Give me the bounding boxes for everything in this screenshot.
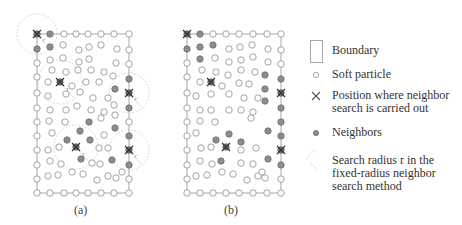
soft-particle [96, 79, 102, 85]
soft-particle [101, 109, 107, 115]
soft-particle [184, 162, 190, 168]
soft-particle [63, 91, 69, 97]
neighbor-particle [226, 131, 232, 137]
soft-particle [226, 46, 232, 52]
soft-particle [114, 46, 120, 52]
soft-particle [208, 144, 214, 150]
soft-particle [49, 130, 55, 136]
soft-particle [126, 119, 132, 125]
legend-item-boundary: Boundary [305, 40, 379, 62]
soft-particle [34, 176, 40, 182]
neighbor-particle [77, 128, 83, 134]
soft-particle [265, 59, 271, 65]
soft-particle [45, 79, 51, 85]
soft-particle [46, 118, 52, 124]
panel-b [183, 30, 285, 196]
soft-particle [250, 109, 256, 115]
soft-particle [113, 175, 119, 181]
soft-particle [63, 69, 69, 75]
soft-particle [184, 176, 190, 182]
soft-particle [83, 79, 89, 85]
soft-particle [197, 118, 203, 124]
soft-particle [126, 47, 132, 53]
soft-particle [98, 31, 104, 37]
soft-particle [250, 161, 256, 167]
legend-item-search-position: Position where neighbor search is carrie… [305, 84, 449, 115]
panel-a: rrrrr [17, 14, 149, 196]
soft-particle [253, 145, 259, 151]
soft-particle [219, 169, 225, 175]
soft-particle [69, 83, 75, 89]
soft-particle [126, 31, 132, 37]
neighbor-particle [197, 44, 203, 50]
soft-particle [236, 31, 242, 37]
soft-particle [184, 90, 190, 96]
soft-particle [230, 171, 236, 177]
neighbor-particle [213, 137, 219, 143]
soft-particle [98, 115, 104, 121]
soft-particle [34, 162, 40, 168]
neighbor-particle [126, 105, 132, 111]
soft-particle [197, 79, 203, 85]
soft-particle [252, 69, 258, 75]
soft-particle [61, 31, 67, 37]
neighbor-particle [278, 133, 284, 139]
soft-particle [198, 145, 204, 151]
soft-particle [219, 83, 225, 89]
soft-particle [126, 190, 132, 196]
neighbor-particle [278, 162, 284, 168]
neighbor-particle [278, 76, 284, 82]
soft-particle [264, 31, 270, 37]
soft-particle [45, 173, 51, 179]
panel-a-caption: (a) [74, 203, 87, 218]
soft-particle [34, 133, 40, 139]
neighbor-particle [87, 137, 93, 143]
neighbor-particle [109, 157, 115, 163]
soft-particle [184, 147, 190, 153]
soft-particle [238, 160, 244, 166]
soft-particle [278, 47, 284, 53]
soft-particle [204, 172, 210, 178]
neighbor-particle [34, 46, 40, 52]
neighbor-particle [278, 105, 284, 111]
soft-particle [193, 173, 199, 179]
soft-particle [111, 102, 117, 108]
soft-particle [184, 119, 190, 125]
soft-particle [88, 107, 94, 113]
neighbor-particle [112, 125, 118, 131]
legend-item-search-radius: Search radius r in the fixed-radius neig… [305, 146, 436, 193]
soft-particle [111, 31, 117, 37]
soft-particle [255, 95, 261, 101]
soft-particle [238, 147, 244, 153]
neighbor-particle [47, 31, 53, 37]
soft-particle [77, 89, 83, 95]
soft-particle [210, 190, 216, 196]
neighbor-particle [197, 31, 203, 37]
neighbor-particle [265, 128, 271, 134]
neighbor-particle [112, 86, 118, 92]
soft-particle [226, 59, 232, 65]
soft-particle [112, 112, 118, 118]
soft-particle [246, 81, 252, 87]
soft-particle [244, 177, 250, 183]
soft-particle [184, 74, 190, 80]
soft-particle [62, 119, 68, 125]
soft-particle [210, 31, 216, 37]
neighbor-particle [64, 137, 70, 143]
soft-particle [126, 61, 132, 67]
neighbor-particle [47, 44, 53, 50]
soft-particle [248, 115, 254, 121]
soft-particle [197, 190, 203, 196]
neighbor-particle [197, 56, 203, 62]
soft-particle [85, 190, 91, 196]
soft-particle [73, 31, 79, 37]
boundary-rect-icon [305, 40, 327, 62]
soft-particle [113, 60, 119, 66]
soft-particle [86, 44, 92, 50]
panel-b-caption: (b) [224, 203, 238, 218]
soft-particle [101, 69, 107, 75]
soft-particle [60, 42, 66, 48]
soft-particle [34, 190, 40, 196]
soft-particle [278, 176, 284, 182]
soft-particle [184, 60, 190, 66]
